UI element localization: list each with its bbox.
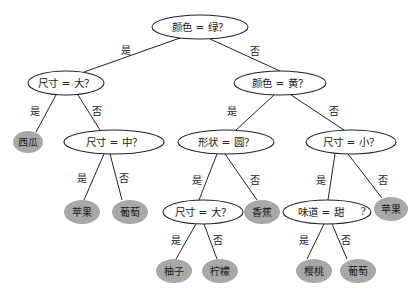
leaf-label: 樱桃 [304,265,324,277]
decision-node: 尺寸 = 中？ [64,130,164,154]
edge-label: 是 [77,173,87,184]
leaf-node: 苹果 [374,197,408,221]
decision-node: 颜色 = 绿？ [152,15,248,39]
tree-edge-yes [236,95,274,130]
leaf-node: 西瓜 [13,131,43,153]
leaf-label: 香蕉 [252,207,272,218]
decision-tree-diagram: 是否是否是否是否是否是否是否是否 颜色 = 绿？尺寸 = 大？颜色 = 黄？西瓜… [0,0,418,295]
leaf-label: 苹果 [381,203,401,215]
edge-label: 是 [192,175,202,186]
decision-node: 尺寸 = 大？ [28,71,104,95]
decision-label: 味道 = 甜 [298,206,344,218]
decision-label: 尺寸 = 小？ [323,136,378,148]
decision-label: 尺寸 = 大？ [38,77,93,89]
edge-label: 是 [30,106,40,117]
leaf-label: 葡萄 [348,265,368,277]
decision-node: 味道 = 甜? [283,200,371,224]
decision-label: 尺寸 = 中？ [86,136,141,148]
decision-label: 形状 = 圆？ [198,136,253,148]
edge-label: 是 [171,235,181,246]
decision-node: 形状 = 圆？ [178,130,274,154]
decision-node: 颜色 = 黄？ [234,71,326,95]
edge-label: 是 [299,235,309,246]
edge-label: 否 [250,175,260,186]
leaf-node: 柠檬 [202,259,238,283]
decision-label: 颜色 = 黄？ [252,77,307,89]
decision-label: 颜色 = 绿？ [172,21,227,33]
edge-label: 否 [119,173,129,184]
tree-edge-yes [328,154,335,200]
leaf-node: 葡萄 [340,259,376,283]
leaf-node: 柚子 [156,259,192,283]
edge-label: 否 [341,235,351,246]
tree-edge-yes [307,224,324,259]
edge-label: 否 [329,106,339,117]
leaf-label: 柚子 [164,265,184,277]
tree-edge-no [210,39,280,71]
leaf-node: 苹果 [64,200,100,224]
leaf-node: 香蕉 [244,200,280,224]
tree-edge-yes [84,38,180,72]
tree-edge-no [348,154,382,198]
leaf-node: 樱桃 [296,259,332,283]
leaf-label: 苹果 [72,206,92,218]
tree-edge-yes [84,154,104,200]
edge-label: 否 [250,46,260,57]
edge-label: 是 [227,106,237,117]
leaf-node: 葡萄 [112,200,148,224]
edge-label: 是 [121,45,131,56]
question-mark: ? [360,205,366,217]
edge-label: 否 [378,175,388,186]
leaf-label: 葡萄 [120,206,140,218]
leaf-label: 西瓜 [18,137,38,148]
edge-label: 否 [213,235,223,246]
leaf-label: 柠檬 [210,265,230,277]
decision-label: 尺寸 = 大？ [175,206,230,218]
decision-node: 尺寸 = 小？ [306,130,396,154]
edge-label: 是 [316,175,326,186]
edge-label: 否 [92,106,102,117]
decision-node: 尺寸 = 大？ [163,200,243,224]
